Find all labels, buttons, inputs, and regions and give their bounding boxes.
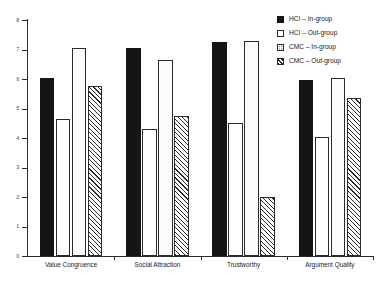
y-axis-tick-label: 5 bbox=[16, 107, 19, 112]
y-axis-tick-label: 4 bbox=[16, 136, 19, 141]
bar bbox=[228, 123, 243, 256]
legend-swatch-icon bbox=[277, 58, 284, 65]
y-axis-tick-label: 8 bbox=[16, 18, 19, 23]
bar bbox=[142, 129, 157, 256]
y-axis-tick-label: 1 bbox=[16, 225, 19, 230]
y-axis-tick: 0 bbox=[22, 256, 28, 257]
legend-item: HCI – Out-group bbox=[277, 26, 385, 40]
y-axis-tick-label: 6 bbox=[16, 77, 19, 82]
legend-item-label: HCI – In-group bbox=[289, 16, 332, 23]
y-axis-tick-label: 7 bbox=[16, 48, 19, 53]
bar-group bbox=[212, 20, 275, 256]
bar bbox=[40, 78, 55, 256]
legend-swatch-icon bbox=[277, 30, 284, 37]
y-axis-tick-label: 0 bbox=[16, 254, 19, 259]
legend-item-label: HCI – Out-group bbox=[289, 30, 337, 37]
legend-item: CMC – In-group bbox=[277, 40, 385, 54]
bar bbox=[158, 60, 173, 256]
legend-item: HCI – In-group bbox=[277, 12, 385, 26]
y-axis-tick-label: 3 bbox=[16, 166, 19, 171]
bar-group bbox=[126, 20, 189, 256]
bar bbox=[315, 137, 330, 256]
bar-group bbox=[40, 20, 103, 256]
legend-item-label: CMC – Out-group bbox=[289, 58, 341, 65]
bar bbox=[299, 80, 314, 256]
chart-legend: HCI – In-groupHCI – Out-groupCMC – In-gr… bbox=[277, 12, 385, 68]
x-axis-category-label: Argument Quality bbox=[305, 262, 354, 268]
legend-swatch-icon bbox=[277, 44, 284, 51]
bar bbox=[212, 42, 227, 256]
bar bbox=[56, 119, 71, 256]
bar bbox=[244, 41, 259, 256]
bar bbox=[331, 78, 346, 256]
bar-chart: 012345678 Value CongruenceSocial Attract… bbox=[0, 0, 387, 290]
legend-item-label: CMC – In-group bbox=[289, 44, 336, 51]
x-axis-tick bbox=[287, 256, 288, 260]
x-axis-tick bbox=[114, 256, 115, 260]
bar bbox=[72, 48, 87, 256]
x-axis-tick bbox=[373, 256, 374, 260]
x-axis-category-label: Social Attraction bbox=[134, 262, 180, 268]
bar bbox=[88, 86, 103, 256]
y-axis-tick-label: 2 bbox=[16, 195, 19, 200]
bar bbox=[347, 98, 362, 256]
x-axis-category-label: Trustworthy bbox=[227, 262, 260, 268]
bar bbox=[260, 197, 275, 256]
bar bbox=[174, 116, 189, 256]
x-axis-tick bbox=[201, 256, 202, 260]
legend-swatch-icon bbox=[277, 16, 284, 23]
x-axis-category-label: Value Congruence bbox=[45, 262, 97, 268]
bar bbox=[126, 48, 141, 256]
legend-item: CMC – Out-group bbox=[277, 54, 385, 68]
